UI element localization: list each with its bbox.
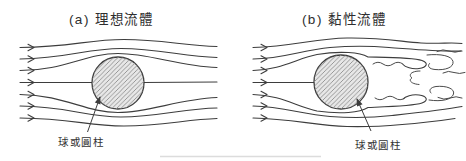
- flow-arrow-icon: [261, 67, 267, 73]
- panel-a-diagram: [20, 40, 217, 133]
- streamline: [20, 40, 217, 48]
- wake-eddy: [427, 55, 453, 70]
- streamline: [253, 46, 462, 59]
- flow-arrow-icon: [261, 91, 267, 97]
- panel-a-title: (a) 理想流體: [0, 8, 222, 28]
- wake-eddy: [410, 71, 420, 85]
- streamline: [253, 118, 455, 127]
- wake-eddy: [438, 97, 462, 99]
- wake-eddy: [373, 62, 403, 66]
- panel-a-label: 球或圓柱: [58, 134, 104, 149]
- streamline: [20, 118, 217, 126]
- panel-b-diagram: [253, 38, 465, 131]
- figure-flow-comparison: (a) 理想流體 (b) 黏性流體 球或圓柱 球或圓柱: [0, 0, 466, 161]
- sphere-cylinder-b: [314, 55, 368, 109]
- panel-b-title: (b) 黏性流體: [233, 8, 455, 28]
- sphere-cylinder-a: [92, 57, 144, 109]
- wake-eddy: [443, 71, 465, 73]
- panel-b-label: 球或圓柱: [355, 137, 401, 152]
- wake-eddy: [375, 96, 405, 100]
